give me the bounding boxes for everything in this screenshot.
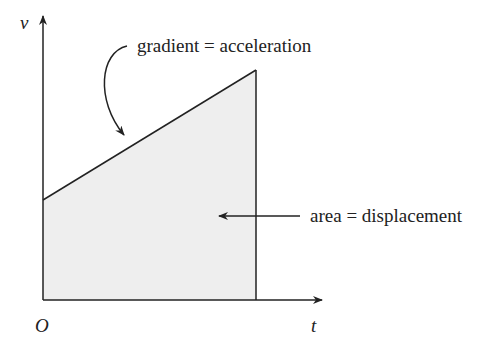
y-axis-label: v — [20, 12, 29, 33]
gradient-arrow — [104, 46, 127, 135]
gradient-annotation: gradient = acceleration — [137, 35, 312, 56]
displacement-area — [43, 70, 256, 300]
x-axis-label: t — [311, 315, 317, 336]
origin-label: O — [35, 315, 49, 336]
velocity-time-diagram: v t O gradient = acceleration area = dis… — [0, 0, 502, 351]
area-annotation: area = displacement — [310, 205, 463, 226]
